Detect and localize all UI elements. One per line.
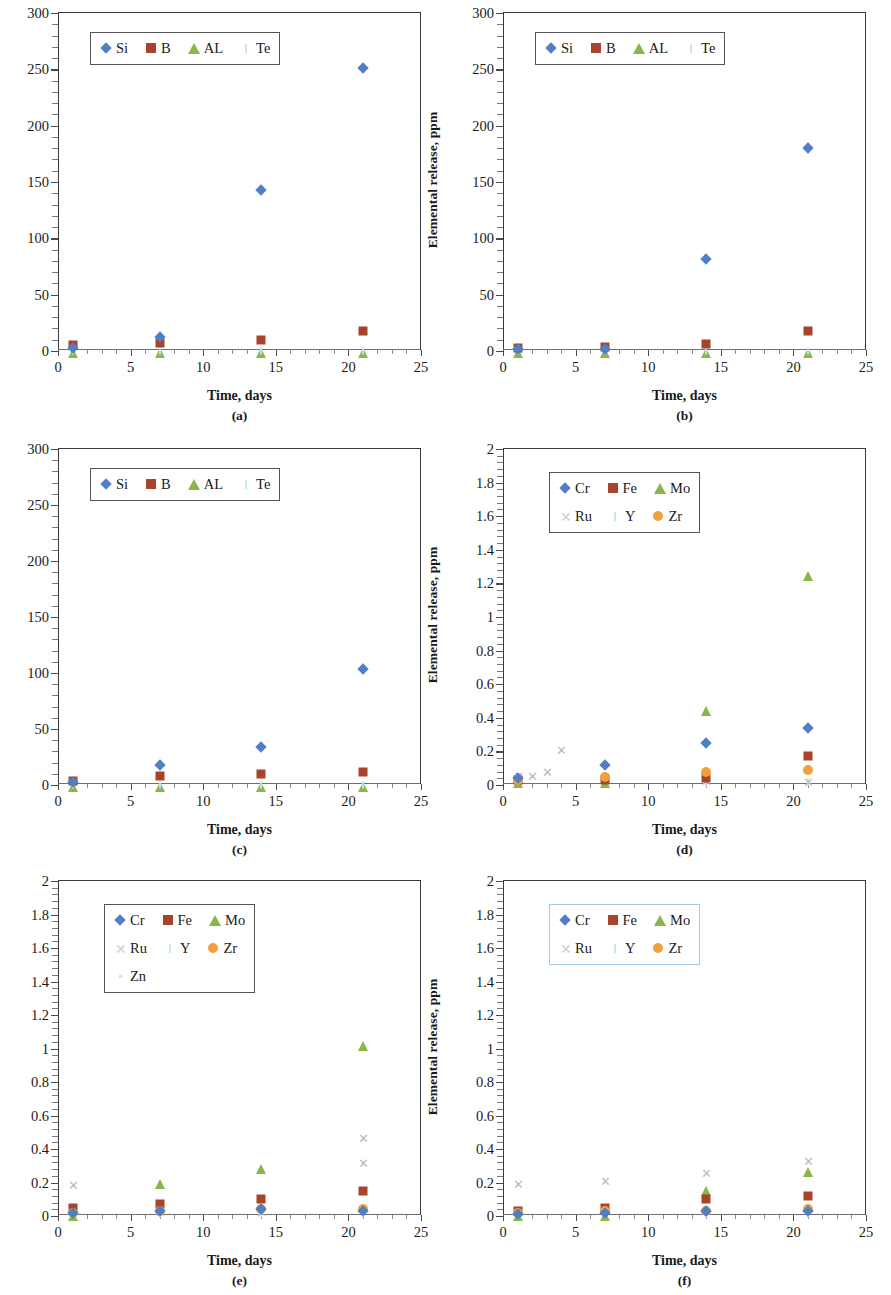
- triangle-marker-icon: [188, 478, 201, 491]
- y-minor-tick: [52, 901, 58, 902]
- y-tick-label: 1: [487, 609, 494, 626]
- legend-label: B: [161, 476, 171, 493]
- data-point-ru: ✕: [701, 1169, 711, 1179]
- y-minor-tick: [52, 193, 58, 194]
- triangle-glyph: [654, 915, 666, 926]
- legend-item-cr: Cr: [559, 912, 590, 929]
- y-minor-tick: [497, 968, 503, 969]
- y-minor-tick: [52, 955, 58, 956]
- x-tick: [131, 1215, 132, 1221]
- data-point-ru: ✕: [513, 1180, 523, 1190]
- y-minor-tick: [52, 606, 58, 607]
- y-minor-tick: [52, 1156, 58, 1157]
- x-minor-tick: [547, 350, 548, 354]
- legend-item-fe: Fe: [607, 912, 638, 929]
- x-minor-tick: [247, 1215, 248, 1219]
- legend-item-si: Si: [545, 40, 573, 57]
- legend-label: Cr: [130, 912, 145, 929]
- y-minor-tick: [497, 577, 503, 578]
- legend-item-si: Si: [100, 40, 128, 57]
- square-glyph: [146, 479, 156, 489]
- x-tick: [866, 784, 867, 790]
- x-tick-label: 5: [127, 793, 134, 810]
- chart-legend: SiBALTe: [535, 32, 725, 65]
- legend-label: Ru: [575, 508, 592, 525]
- x-tick: [203, 784, 204, 790]
- y-tick: [51, 505, 58, 506]
- y-minor-tick: [497, 570, 503, 571]
- legend-label: B: [606, 40, 616, 57]
- y-minor-tick: [497, 81, 503, 82]
- x-minor-tick: [634, 350, 635, 354]
- y-minor-tick: [497, 894, 503, 895]
- y-minor-tick: [497, 1142, 503, 1143]
- x-minor-tick: [290, 350, 291, 354]
- x-tick-label: 25: [414, 359, 429, 376]
- x-minor-tick: [377, 350, 378, 354]
- y-minor-tick: [52, 1075, 58, 1076]
- y-tick-label: 0.4: [476, 1141, 494, 1158]
- y-tick: [496, 1049, 503, 1050]
- y-minor-tick: [52, 1035, 58, 1036]
- y-minor-tick: [52, 718, 58, 719]
- data-point-b: [803, 326, 812, 335]
- y-minor-tick: [52, 47, 58, 48]
- y-minor-tick: [52, 1142, 58, 1143]
- y-minor-tick: [497, 1075, 503, 1076]
- x-tick: [276, 1215, 277, 1221]
- x-minor-tick: [319, 784, 320, 788]
- data-point-fe: [358, 1186, 367, 1195]
- y-minor-tick: [52, 539, 58, 540]
- y-tick-label: 2: [487, 441, 494, 458]
- x-tick-label: 20: [341, 1224, 356, 1241]
- y-minor-tick: [52, 1176, 58, 1177]
- legend-item-si: Si: [100, 476, 128, 493]
- bar-glyph: [614, 944, 616, 953]
- data-point-si: [154, 759, 165, 770]
- bar-glyph: [245, 44, 247, 53]
- x-tick: [58, 1215, 59, 1221]
- legend-item-b: B: [145, 40, 171, 57]
- y-minor-tick: [52, 595, 58, 596]
- data-point-mo: [358, 1041, 368, 1051]
- y-minor-tick: [497, 604, 503, 605]
- y-minor-tick: [52, 24, 58, 25]
- data-point-mo: [155, 1179, 165, 1189]
- y-minor-tick: [52, 1203, 58, 1204]
- x-minor-tick: [677, 1215, 678, 1219]
- chart-legend: CrFeMo✕RuYZrZn: [104, 904, 255, 993]
- y-minor-tick: [497, 745, 503, 746]
- legend-label: Zn: [130, 968, 146, 985]
- y-tick-label: 0.2: [476, 1174, 494, 1191]
- y-minor-tick: [52, 1069, 58, 1070]
- dot-glyph: [119, 975, 122, 978]
- legend-label: Si: [116, 476, 128, 493]
- y-tick: [51, 1216, 58, 1217]
- y-minor-tick: [497, 772, 503, 773]
- y-tick-label: 1.2: [476, 1007, 494, 1024]
- y-minor-tick: [497, 928, 503, 929]
- y-minor-tick: [52, 774, 58, 775]
- y-minor-tick: [497, 148, 503, 149]
- y-tick-label: 0: [487, 777, 494, 794]
- y-minor-tick: [497, 489, 503, 490]
- y-tick: [51, 1183, 58, 1184]
- x-tick: [421, 784, 422, 790]
- y-minor-tick: [52, 695, 58, 696]
- x-minor-tick: [377, 784, 378, 788]
- y-minor-tick: [52, 328, 58, 329]
- data-point-b: [358, 767, 367, 776]
- x-tick: [421, 1215, 422, 1221]
- legend-label: Cr: [575, 912, 590, 929]
- data-point-ru: ✕: [358, 1134, 368, 1144]
- data-point-te: [807, 348, 809, 355]
- diamond-marker-icon: [100, 478, 113, 491]
- y-tick: [496, 651, 503, 652]
- diamond-glyph: [100, 42, 111, 53]
- y-minor-tick: [497, 92, 503, 93]
- x-minor-tick: [532, 350, 533, 354]
- y-minor-tick: [497, 955, 503, 956]
- y-tick: [51, 561, 58, 562]
- x-minor-tick: [750, 350, 751, 354]
- legend-label: Y: [625, 508, 635, 525]
